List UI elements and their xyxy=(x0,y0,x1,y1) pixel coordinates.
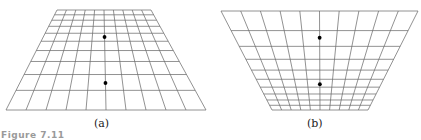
panel-a-upper-point xyxy=(103,35,107,39)
grid-column-line xyxy=(6,10,57,110)
panel-b-lower-point xyxy=(318,82,322,86)
grid-column-line xyxy=(132,10,166,110)
figure-canvas xyxy=(0,0,421,140)
grid-column-line xyxy=(280,11,301,110)
grid-column-line xyxy=(104,10,106,110)
grid-column-line xyxy=(46,10,76,110)
panel-b-grid xyxy=(221,11,418,110)
grid-column-line xyxy=(86,10,95,110)
panel-a-lower-point xyxy=(104,81,108,85)
panel-b-caption: (b) xyxy=(307,117,323,130)
grid-column-line xyxy=(26,10,66,110)
grid-column-line xyxy=(113,10,126,110)
grid-column-line xyxy=(151,10,206,110)
panel-a-grid xyxy=(6,10,206,110)
grid-column-line xyxy=(349,11,379,110)
grid-column-line xyxy=(66,10,85,110)
panel-a-caption: (a) xyxy=(94,117,109,130)
grid-column-line xyxy=(368,11,418,110)
grid-column-line xyxy=(123,10,146,110)
figure-label: Figure 7.11 xyxy=(1,130,64,140)
grid-column-line xyxy=(358,11,398,110)
grid-column-line xyxy=(300,11,311,110)
grid-column-line xyxy=(339,11,359,110)
grid-column-line xyxy=(142,10,186,110)
panel-b-upper-point xyxy=(318,36,322,40)
grid-column-line xyxy=(320,11,321,110)
grid-column-line xyxy=(330,11,340,110)
